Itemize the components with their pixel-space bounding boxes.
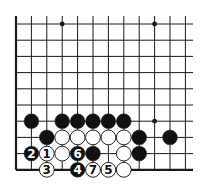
white-stone-move-7: 7	[86, 162, 101, 177]
black-stone	[39, 130, 54, 145]
go-board-diagram: 2163475	[0, 0, 208, 192]
white-stone-icon	[55, 146, 70, 161]
white-stone	[116, 162, 131, 177]
white-stone-move-5: 5	[101, 162, 116, 177]
white-stone	[116, 146, 131, 161]
white-stone-icon	[116, 162, 131, 177]
black-stone-icon	[70, 114, 85, 129]
white-stone-icon	[70, 130, 85, 145]
white-stone-icon	[116, 130, 131, 145]
black-stone-move-2: 2	[24, 146, 39, 161]
black-stone	[70, 114, 85, 129]
black-stone-icon	[86, 146, 101, 161]
black-stone	[101, 114, 116, 129]
move-number-label: 4	[73, 163, 81, 177]
move-number-label: 1	[43, 147, 51, 161]
white-stone-icon	[55, 130, 70, 145]
black-stone-icon	[101, 114, 116, 129]
black-stone	[132, 146, 147, 161]
black-stone-icon	[24, 114, 39, 129]
black-stone	[24, 114, 39, 129]
white-stone	[116, 130, 131, 145]
white-stone	[55, 130, 70, 145]
black-stone-icon	[55, 114, 70, 129]
white-stone-move-3: 3	[39, 162, 54, 177]
black-stone	[163, 130, 178, 145]
black-stone-move-6: 6	[70, 146, 85, 161]
white-stone-move-1: 1	[39, 146, 54, 161]
black-stone-icon	[86, 114, 101, 129]
white-stone-icon	[101, 130, 116, 145]
white-stone	[101, 130, 116, 145]
white-stone	[86, 130, 101, 145]
star-point-icon	[152, 22, 157, 27]
star-point-icon	[152, 119, 157, 124]
move-number-label: 7	[89, 163, 97, 177]
move-number-label: 3	[43, 163, 51, 177]
star-point-icon	[60, 22, 65, 27]
black-stone	[86, 146, 101, 161]
black-stone-icon	[163, 130, 178, 145]
black-stone	[86, 114, 101, 129]
move-number-label: 2	[27, 147, 35, 161]
move-number-label: 6	[73, 147, 81, 161]
white-stone	[70, 130, 85, 145]
move-number-label: 5	[104, 163, 112, 177]
black-stone	[116, 114, 131, 129]
black-stone-icon	[132, 146, 147, 161]
white-stone	[55, 146, 70, 161]
black-stone-move-4: 4	[70, 162, 85, 177]
black-stone	[55, 114, 70, 129]
white-stone-icon	[86, 130, 101, 145]
black-stone-icon	[39, 130, 54, 145]
black-stone	[132, 130, 147, 145]
black-stone-icon	[116, 114, 131, 129]
white-stone-icon	[116, 146, 131, 161]
black-stone-icon	[132, 130, 147, 145]
